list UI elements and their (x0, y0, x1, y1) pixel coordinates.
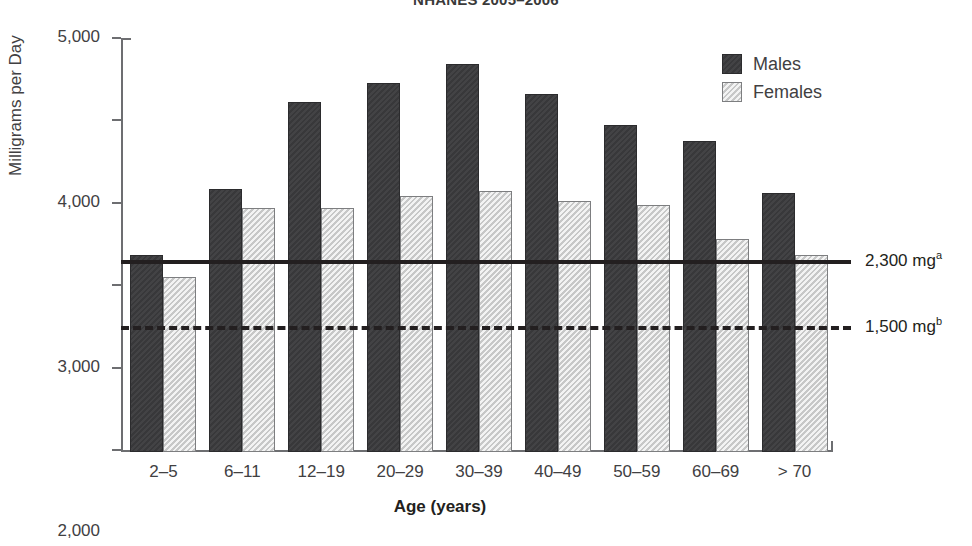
x-axis-category-label: 50–59 (613, 462, 660, 482)
legend-swatch-females-icon (722, 82, 742, 102)
bar-females[interactable] (400, 196, 433, 452)
x-axis-category-label: 2–5 (149, 462, 177, 482)
chart-figure: NHANES 2005–2006 Milligrams per Day 01,0… (0, 0, 972, 546)
bar-males[interactable] (367, 83, 400, 452)
bar-males[interactable] (762, 193, 795, 452)
bar-females[interactable] (479, 191, 512, 452)
x-axis-category-label: 30–39 (455, 462, 502, 482)
y-axis-tick-label: 2,000 (57, 521, 100, 541)
legend-label-males: Males (753, 54, 801, 75)
y-axis-tick: 4,000 (112, 119, 121, 121)
bar-males[interactable] (288, 102, 321, 452)
bar-females[interactable] (795, 255, 828, 452)
reference-line-footnote-marker: b (936, 316, 942, 328)
legend-item-females[interactable]: Females (722, 78, 822, 106)
x-axis-title: Age (years) (0, 497, 880, 517)
legend-label-females: Females (753, 82, 822, 103)
chart-legend: Males Females (722, 50, 822, 106)
y-axis-tick-label: 4,000 (57, 192, 100, 212)
reference-label-lower: 1,500 mgb (865, 316, 942, 338)
y-axis-tick: 2,000 (112, 284, 121, 286)
y-axis-tick: 5,000 (112, 37, 121, 39)
bar-females[interactable] (163, 277, 196, 453)
x-axis-category-label: 20–29 (376, 462, 423, 482)
y-axis-tick-label: 5,000 (57, 27, 100, 47)
y-axis-title: Milligrams per Day (6, 0, 26, 176)
x-axis-right-cap (831, 441, 833, 451)
reference-line-label-text: 1,500 mg (865, 317, 936, 336)
legend-swatch-males-icon (722, 54, 742, 74)
reference-line-lower (121, 326, 851, 330)
bar-females[interactable] (716, 239, 749, 452)
bar-males[interactable] (446, 64, 479, 452)
y-axis-tick-label: 3,000 (57, 357, 100, 377)
bar-males[interactable] (683, 141, 716, 452)
y-axis-tick: 1,000 (112, 367, 121, 369)
reference-line-upper (121, 260, 851, 264)
bar-males[interactable] (209, 189, 242, 452)
bar-males[interactable] (130, 255, 163, 452)
y-axis-top-cap (121, 38, 131, 40)
bar-males[interactable] (525, 94, 558, 452)
reference-line-footnote-marker: a (936, 250, 942, 262)
y-axis-line (121, 38, 123, 452)
x-axis-category-label: > 70 (778, 462, 812, 482)
legend-item-males[interactable]: Males (722, 50, 822, 78)
reference-line-label-text: 2,300 mg (865, 251, 936, 270)
x-axis-category-label: 60–69 (692, 462, 739, 482)
chart-title: NHANES 2005–2006 (0, 0, 972, 8)
reference-label-upper: 2,300 mga (865, 250, 942, 272)
bar-males[interactable] (604, 125, 637, 452)
y-axis-tick: 0 (112, 449, 121, 451)
x-axis-category-label: 12–19 (298, 462, 345, 482)
x-axis-category-label: 40–49 (534, 462, 581, 482)
x-axis-category-label: 6–11 (224, 462, 261, 482)
y-axis-tick: 3,000 (112, 202, 121, 204)
